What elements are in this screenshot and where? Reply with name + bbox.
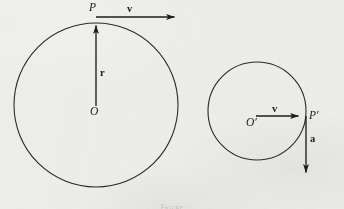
right-circle bbox=[208, 62, 306, 160]
right-velocity-label-v: v bbox=[272, 104, 277, 115]
circular-motion-figure: P v r O O′ v P′ a Figure bbox=[0, 0, 344, 209]
right-center-label-O-prime: O′ bbox=[246, 117, 257, 129]
acceleration-label-a: a bbox=[310, 134, 315, 145]
left-center-label-O: O bbox=[90, 106, 98, 118]
right-point-label-P-prime: P′ bbox=[309, 110, 319, 122]
left-point-label-P: P bbox=[89, 2, 96, 14]
figure-caption: Figure bbox=[0, 203, 344, 209]
left-velocity-label-v: v bbox=[127, 4, 132, 15]
figure-vector-canvas bbox=[0, 0, 344, 209]
radius-label-r: r bbox=[100, 68, 105, 79]
